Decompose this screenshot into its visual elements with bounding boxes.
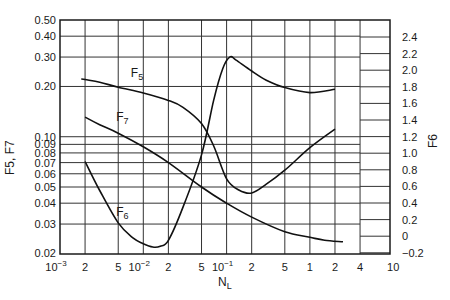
x-tick-label: 1 — [307, 261, 313, 273]
chart: 10−32510−22510−12512410 0.500.400.300.20… — [0, 0, 450, 300]
x-axis-ticks: 10−32510−22510−12512410 — [45, 259, 399, 273]
x-tick-label: 5 — [115, 261, 121, 273]
y-right-tick-label: 2.4 — [402, 31, 417, 43]
x-tick-label: 10−1 — [212, 259, 234, 273]
y-right-tick-label: 1.6 — [402, 97, 417, 109]
y-left-tick-label: 0.06 — [35, 168, 56, 180]
y-right-tick-label: 1.8 — [402, 81, 417, 93]
right-y-axis-ticks: 2.42.22.01.81.61.41.21.00.80.60.40.20−0.… — [402, 31, 424, 259]
y-right-tick-label: 1.4 — [402, 114, 417, 126]
y-left-tick-label: 0.40 — [35, 30, 56, 42]
left-y-axis-ticks: 0.500.400.300.200.100.090.080.070.060.05… — [35, 14, 56, 259]
x-tick-label: 10−2 — [129, 259, 151, 273]
x-tick-label: 2 — [249, 261, 255, 273]
y-left-tick-label: 0.20 — [35, 80, 56, 92]
y-left-tick-label: 0.02 — [35, 247, 56, 259]
y-left-tick-label: 0.04 — [35, 197, 56, 209]
x-tick-label: 2 — [165, 261, 171, 273]
y-right-tick-label: 2.0 — [402, 64, 417, 76]
y-right-tick-label: 0.6 — [402, 180, 417, 192]
curve-label-f7: F7 — [116, 110, 128, 126]
y-left-tick-label: 0.50 — [35, 14, 56, 26]
curve-f7 — [85, 117, 343, 242]
y-right-tick-label: 0 — [402, 230, 408, 242]
y-right-tick-label: 2.2 — [402, 48, 417, 60]
y-left-tick-label: 0.30 — [35, 51, 56, 63]
x-tick-label: 2 — [332, 261, 338, 273]
curve-f5 — [81, 79, 335, 193]
y-right-tick-label: 0.2 — [402, 214, 417, 226]
right-axis-grid — [360, 37, 390, 253]
y-right-tick-label: −0.2 — [402, 247, 424, 259]
y-right-tick-label: 1.0 — [402, 147, 417, 159]
x-tick-label: 5 — [198, 261, 204, 273]
x-axis-label: NL — [218, 275, 232, 291]
y-right-tick-label: 1.2 — [402, 131, 417, 143]
y-left-tick-label: 0.05 — [35, 181, 56, 193]
right-y-axis-label: F6 — [426, 134, 440, 148]
curve-label-f6: F6 — [116, 205, 128, 221]
x-tick-label: 10 — [387, 261, 399, 273]
y-right-tick-label: 0.4 — [402, 197, 417, 209]
curve-label-f5: F5 — [131, 66, 143, 82]
y-left-tick-label: 0.03 — [35, 218, 56, 230]
x-tick-label: 10−3 — [45, 259, 67, 273]
y-right-tick-label: 0.8 — [402, 164, 417, 176]
x-tick-label: 2 — [82, 261, 88, 273]
left-y-axis-label: F5, F7 — [3, 140, 17, 175]
x-tick-label: 5 — [282, 261, 288, 273]
x-tick-label: 4 — [357, 261, 363, 273]
